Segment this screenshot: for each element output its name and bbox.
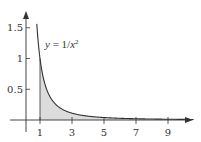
tick-marks: 135790.511.5 <box>7 22 171 138</box>
chart-canvas: 135790.511.5 y = 1/x2 <box>0 0 201 142</box>
x-axis-arrow-icon <box>185 117 193 123</box>
shaded-area <box>40 59 194 121</box>
x-tick-label: 3 <box>69 127 75 138</box>
x-tick-label: 5 <box>101 127 107 138</box>
y-tick-label: 1 <box>17 53 23 64</box>
shaded-region <box>40 59 194 121</box>
x-tick-label: 7 <box>133 127 139 138</box>
x-tick-label: 9 <box>165 127 171 138</box>
y-axis-arrow-icon <box>23 11 29 19</box>
y-tick-label: 0.5 <box>7 84 23 95</box>
x-tick-label: 1 <box>37 127 43 138</box>
y-tick-label: 1.5 <box>7 22 23 33</box>
curve-equation-label: y = 1/x2 <box>44 38 79 50</box>
